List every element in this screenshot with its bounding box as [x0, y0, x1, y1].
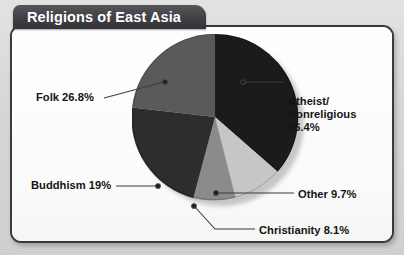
page-title: Religions of East Asia — [27, 9, 181, 25]
leader-line-christianity — [195, 207, 255, 229]
slice-label-other: Other 9.7% — [298, 188, 356, 201]
leader-dot-buddhism — [156, 184, 161, 189]
leader-dot-folk — [163, 80, 168, 85]
chart-card-inner: Folk 26.8% Buddhism 19% Atheist/ Nonreli… — [12, 27, 392, 241]
leader-dot-atheist — [241, 80, 246, 85]
slice-label-atheist: Atheist/ Nonreligious 36.4% — [288, 95, 384, 135]
chart-card: Folk 26.8% Buddhism 19% Atheist/ Nonreli… — [10, 25, 394, 243]
slice-label-buddhism: Buddhism 19% — [31, 179, 111, 192]
slice-label-folk: Folk 26.8% — [36, 91, 94, 104]
slice-label-christianity: Christianity 8.1% — [259, 224, 349, 237]
leader-dot-christianity — [192, 204, 197, 209]
title-tab: Religions of East Asia — [13, 5, 206, 29]
leader-line-folk — [104, 82, 164, 98]
leader-dot-other — [214, 191, 219, 196]
